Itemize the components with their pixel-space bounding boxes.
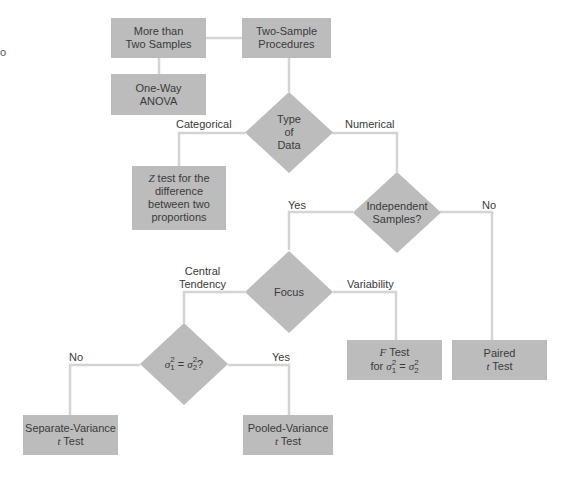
node-label-line1: F Test (380, 346, 410, 359)
node-label-line1: Paired (484, 347, 516, 360)
node-label-line2: t Test (275, 435, 301, 448)
node-label-line2: Procedures (258, 38, 314, 51)
node-label-line2: ANOVA (140, 95, 178, 108)
node-label-line1: One-Way (135, 82, 181, 95)
node-label-line1: Pooled-Variance (248, 422, 329, 435)
label-line2: Tendency (179, 278, 226, 291)
node-pooled-variance-t-test: Pooled-Variance t Test (243, 415, 333, 455)
cropped-edge-text: o (0, 46, 6, 58)
node-label-line1: Separate-Variance (25, 422, 116, 435)
f-test-text: Test (386, 346, 409, 358)
node-separate-variance-t-test: Separate-Variance t Test (23, 415, 118, 455)
edge-label-no-variance: No (69, 351, 83, 364)
node-label-line2: Two Samples (125, 38, 191, 51)
for-text: for (370, 359, 386, 371)
edge-label-categorical: Categorical (176, 118, 232, 131)
node-label-line1: Z test for the (148, 172, 209, 185)
test-text: Test (490, 360, 513, 372)
node-label-line2: difference (155, 185, 203, 198)
node-label-line3: between two (148, 198, 210, 211)
equals: = (175, 358, 188, 371)
test-text: Test (61, 435, 84, 447)
variance-equality-expression: σ21 = σ22? (165, 356, 203, 372)
edge-label-no-independent: No (482, 199, 496, 212)
node-label-line2: of (284, 126, 293, 139)
variance-exponents-2: 22 (414, 359, 418, 375)
decision-equal-variances: σ21 = σ22? (140, 323, 228, 405)
node-label-line1: More than (134, 25, 184, 38)
node-label-line2: t Test (57, 435, 83, 448)
node-label-line2: for σ21 = σ22 (370, 359, 418, 375)
node-label-line1: Focus (274, 286, 304, 299)
sub: 2 (414, 367, 418, 375)
z-test-text: test for the (155, 172, 210, 184)
edge-label-yes-independent: Yes (288, 199, 306, 212)
node-one-way-anova: One-Way ANOVA (111, 74, 206, 115)
node-label-line1: Independent (366, 200, 427, 213)
edge-label-yes-variance: Yes (272, 351, 290, 364)
node-label-line1: Type (277, 113, 301, 126)
node-two-sample-procedures: Two-Sample Procedures (242, 18, 331, 58)
edge-label-numerical: Numerical (345, 118, 395, 131)
decision-independent-samples: Independent Samples? (353, 172, 441, 253)
node-label-line2: t Test (486, 360, 512, 373)
node-label-line2: Samples? (373, 213, 422, 226)
edge-label-variability: Variability (347, 278, 394, 291)
node-label-line1: Two-Sample (256, 25, 317, 38)
decision-focus: Focus (245, 251, 333, 333)
connector-lines (0, 0, 570, 483)
equals: = (396, 359, 409, 371)
question-mark: ? (197, 358, 203, 371)
flowchart: o More than Two Samples Two-Sample Proce… (0, 0, 570, 483)
node-label-line4: proportions (151, 211, 206, 224)
node-z-test: Z test for the difference between two pr… (132, 166, 226, 230)
edge-label-central-tendency: Central Tendency (179, 265, 226, 291)
decision-type-of-data: Type of Data (245, 92, 333, 173)
node-label-line3: Data (277, 139, 300, 152)
test-text: Test (278, 435, 301, 447)
node-f-test: F Test for σ21 = σ22 (347, 340, 442, 380)
node-paired-t-test: Paired t Test (452, 340, 547, 380)
label-line1: Central (179, 265, 226, 278)
node-more-than-two-samples: More than Two Samples (111, 18, 206, 58)
